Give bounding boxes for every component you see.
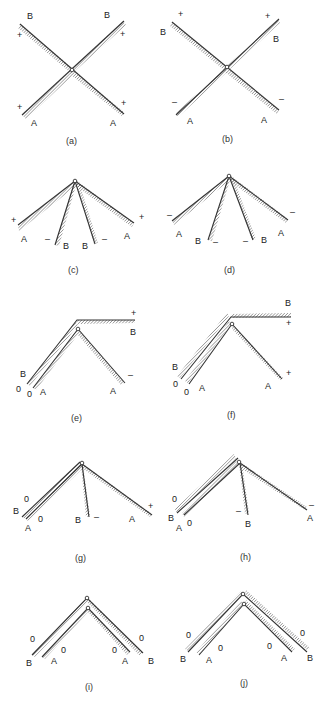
sign-label: – <box>172 97 177 107</box>
panel-f: B A B A 0 0 + + (f) <box>172 298 291 420</box>
label-a: A <box>21 234 27 244</box>
label-a: A <box>110 386 116 396</box>
sign-label: 0 <box>267 641 272 651</box>
sign-label: + <box>148 501 153 511</box>
label-b: B <box>180 654 186 664</box>
label-b: B <box>82 241 88 251</box>
label-b: B <box>63 241 69 251</box>
panel-i: B A A B 0 0 0 0 (i) <box>26 596 154 692</box>
sign-label: – <box>236 506 241 516</box>
hatch-band <box>245 590 310 650</box>
label-a: A <box>122 656 128 666</box>
label-b: B <box>273 34 279 44</box>
junction-point <box>70 68 74 72</box>
panel-j: B A A B 0 0 0 0 (j) <box>180 590 313 688</box>
label-a: A <box>176 523 182 533</box>
label-b: B <box>20 369 26 379</box>
label-b: B <box>130 327 136 337</box>
junction-point <box>230 322 234 326</box>
boundary-line-a <box>184 463 240 515</box>
panel-a: B B A A + + + + (a) <box>17 10 126 146</box>
junction-point <box>73 179 77 183</box>
label-b: B <box>195 236 201 246</box>
hatch-band <box>22 462 82 519</box>
panel-caption: (e) <box>71 413 82 423</box>
boundary-line-b <box>177 458 238 513</box>
sign-label: – <box>243 236 248 246</box>
panel-caption: (f) <box>227 410 236 420</box>
boundary-line-a <box>189 324 282 384</box>
boundary-line <box>240 463 307 510</box>
junction-point <box>241 592 245 596</box>
junction-point <box>225 65 229 69</box>
sign-label: – <box>167 210 172 220</box>
sign-label: – <box>45 234 50 244</box>
sign-label: – <box>290 207 295 217</box>
sign-label: 0 <box>139 633 144 643</box>
panel-c: A B B A + – – + (c) <box>11 179 144 275</box>
label-b: B <box>307 653 313 663</box>
hatch-band <box>22 72 72 119</box>
sign-label: + <box>17 30 22 40</box>
panel-b: B B A A + + – – (b) <box>160 9 284 144</box>
label-a: A <box>129 514 135 524</box>
figure-canvas: B B A A + + + + (a) B B A A + + – – (b) <box>0 0 328 709</box>
panel-h: B A B A 0 0 – – (h) <box>168 454 314 562</box>
sign-label: – <box>279 94 284 104</box>
label-a: A <box>199 383 205 393</box>
panel-caption: (a) <box>66 136 77 146</box>
sign-label: + <box>286 318 291 328</box>
sign-label: 0 <box>61 645 66 655</box>
label-a: A <box>265 381 271 391</box>
boundary-line-b <box>22 462 80 517</box>
hatch-band <box>185 591 243 651</box>
sign-label: 0 <box>30 634 35 644</box>
junction-point <box>76 327 80 331</box>
panel-d: A B B A – – – – (d) <box>167 174 295 275</box>
label-b: B <box>13 506 19 516</box>
sign-label: + <box>265 11 270 21</box>
label-a: A <box>31 118 37 128</box>
sign-label: 0 <box>300 628 305 638</box>
sign-label: 0 <box>24 494 29 504</box>
sign-label: 0 <box>187 518 192 528</box>
junction-point <box>80 461 84 465</box>
panel-caption: (h) <box>240 552 251 562</box>
label-a: A <box>278 228 284 238</box>
sign-label: + <box>120 29 125 39</box>
junction-point <box>242 602 246 606</box>
sign-label: + <box>131 308 136 318</box>
panel-e: B A B A 0 0 + – (e) <box>16 308 136 423</box>
junction-point <box>85 596 89 600</box>
label-a: A <box>110 118 116 128</box>
panel-caption: (g) <box>75 553 86 563</box>
panel-caption: (b) <box>222 134 233 144</box>
panel-caption: (c) <box>68 265 79 275</box>
hatch-band <box>170 22 226 70</box>
label-a: A <box>307 513 313 523</box>
label-a: A <box>176 229 182 239</box>
sign-label: – <box>213 237 218 247</box>
sign-label: – <box>309 500 314 510</box>
hatch-band <box>225 68 279 114</box>
sign-label: + <box>178 9 183 19</box>
sign-label: + <box>139 212 144 222</box>
sign-label: – <box>94 512 99 522</box>
hatch-band <box>18 24 72 74</box>
label-a: A <box>124 231 130 241</box>
label-a: A <box>206 655 212 665</box>
hatch-band <box>176 68 227 117</box>
sign-label: 0 <box>38 514 43 524</box>
label-a: A <box>40 387 46 397</box>
label-a: A <box>261 115 267 125</box>
label-b: B <box>75 515 81 525</box>
hatch-band <box>77 320 135 324</box>
label-b: B <box>104 10 110 20</box>
label-b: B <box>148 656 154 666</box>
sign-label: + <box>17 102 22 112</box>
panel-g: B A B A 0 0 – + (g) <box>13 461 153 563</box>
hatch-band <box>25 465 83 521</box>
boundary-line-a <box>199 604 292 655</box>
sign-label: – <box>102 234 107 244</box>
label-b: B <box>160 27 166 37</box>
